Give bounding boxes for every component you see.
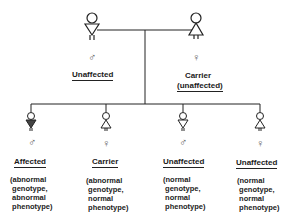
male-symbol-icon: ♂ xyxy=(179,136,187,148)
female-symbol-icon: ♀ xyxy=(192,51,200,63)
child-1-description: (abnormal genotype, abnormal phenotype) xyxy=(10,175,53,211)
mother-status-note: (unaffected) xyxy=(177,81,223,90)
child-4-figure xyxy=(255,113,265,132)
child-2-status: Carrier xyxy=(92,157,118,166)
child-2-description: (abnormal genotype, normal phenotype) xyxy=(86,176,129,212)
child-3-status: Unaffected xyxy=(163,157,204,166)
child-4-status: Unaffected xyxy=(236,158,277,167)
child-2-figure xyxy=(101,113,111,132)
female-symbol-icon: ♀ xyxy=(256,137,264,149)
female-symbol-icon: ♀ xyxy=(102,137,110,149)
father-figure xyxy=(85,13,99,40)
child-4-description: (normal genotype, normal phenotype) xyxy=(237,176,280,212)
male-symbol-icon: ♂ xyxy=(28,136,36,148)
mother-figure xyxy=(189,13,203,39)
male-symbol-icon: ♂ xyxy=(88,51,96,63)
father-status: Unaffected xyxy=(72,70,113,79)
child-3-figure xyxy=(178,113,188,132)
mother-status: Carrier xyxy=(180,71,216,80)
child-3-description: (normal genotype, normal phenotype) xyxy=(163,175,206,211)
child-1-status: Affected xyxy=(14,157,46,166)
child-1-figure xyxy=(26,113,36,132)
